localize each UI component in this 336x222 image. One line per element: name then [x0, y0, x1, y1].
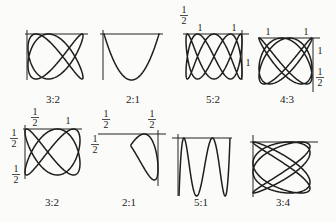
svg-text:1: 1 — [33, 106, 38, 117]
lissajous-panel-2-to-1: 1212122:1 — [91, 108, 166, 208]
frequency-ratio-label: 3:4 — [276, 196, 291, 208]
lissajous-curve — [131, 134, 159, 180]
frequency-ratio-label: 2:1 — [126, 93, 140, 105]
lissajous-panel-3-to-2: 3:2 — [25, 30, 88, 105]
frequency-ratio-label: 3:2 — [46, 93, 60, 105]
svg-text:2: 2 — [14, 174, 19, 185]
tick-label: 1 — [66, 115, 71, 126]
svg-text:2: 2 — [33, 117, 38, 128]
lissajous-panel-2-to-1: 2:1 — [100, 30, 163, 105]
lissajous-panel-4-to-3: 111124:3 — [258, 26, 324, 105]
frequency-ratio-label: 5:1 — [194, 196, 208, 208]
fraction-label: 12 — [10, 127, 18, 149]
frequency-ratio-label: 3:2 — [45, 196, 59, 208]
svg-text:1: 1 — [93, 133, 98, 144]
tick-label: 1 — [232, 22, 237, 33]
lissajous-figures-diagram: 3:22:1121115:2111124:312112123:21212122:… — [0, 0, 336, 222]
tick-label: 1 — [246, 57, 251, 68]
fraction-label: 12 — [148, 108, 156, 130]
fraction-label: 12 — [12, 163, 20, 185]
lissajous-panel-5-to-2: 121115:2 — [180, 4, 251, 105]
svg-text:1: 1 — [12, 127, 17, 138]
lissajous-panel-3-to-2: 12112123:2 — [10, 106, 82, 208]
svg-text:1: 1 — [150, 108, 155, 119]
tick-label: 1 — [318, 45, 323, 56]
svg-text:1: 1 — [14, 163, 19, 174]
lissajous-curve — [28, 34, 83, 79]
tick-label: 1 — [198, 22, 203, 33]
fraction-label: 12 — [91, 133, 99, 155]
tick-label: 1 — [266, 26, 271, 37]
svg-text:1: 1 — [318, 66, 323, 77]
svg-text:2: 2 — [12, 138, 17, 149]
fraction-label: 12 — [102, 108, 110, 130]
svg-text:2: 2 — [104, 119, 109, 130]
lissajous-curve — [25, 129, 80, 175]
svg-text:2: 2 — [93, 144, 98, 155]
svg-text:2: 2 — [182, 15, 187, 26]
fraction-label: 12 — [316, 66, 324, 88]
tick-label: 1 — [304, 26, 309, 37]
lissajous-curve — [186, 34, 242, 79]
lissajous-curve — [253, 142, 310, 193]
lissajous-curve — [259, 38, 312, 84]
svg-text:1: 1 — [182, 4, 187, 15]
lissajous-curve — [104, 34, 159, 80]
lissajous-curve — [179, 138, 230, 196]
lissajous-panel-5-to-1: 5:1 — [172, 134, 232, 208]
svg-text:2: 2 — [150, 119, 155, 130]
lissajous-panel-3-to-4: 3:4 — [250, 135, 318, 208]
frequency-ratio-label: 2:1 — [122, 196, 136, 208]
frequency-ratio-label: 4:3 — [280, 93, 295, 105]
fraction-label: 12 — [31, 106, 39, 128]
frequency-ratio-label: 5:2 — [206, 93, 220, 105]
fraction-label: 12 — [180, 4, 188, 26]
svg-text:2: 2 — [318, 77, 323, 88]
svg-text:1: 1 — [104, 108, 109, 119]
